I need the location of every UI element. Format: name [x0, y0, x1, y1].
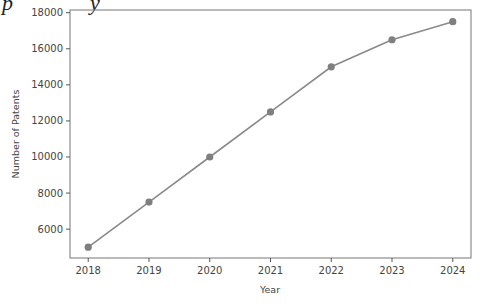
line-chart: 600080001000012000140001600018000 201820… — [0, 0, 481, 304]
y-tick-label: 8000 — [38, 188, 63, 199]
data-point-marker — [388, 36, 395, 43]
x-tick-label: 2019 — [136, 265, 161, 276]
data-point-marker — [328, 63, 335, 70]
data-point-marker — [85, 244, 92, 251]
y-axis-label: Number of Patents — [10, 90, 21, 179]
x-tick-label: 2024 — [440, 265, 465, 276]
y-tick-label: 16000 — [31, 43, 63, 54]
x-axis-label: Year — [259, 284, 280, 295]
data-point-marker — [267, 108, 274, 115]
x-tick-label: 2021 — [258, 265, 283, 276]
x-tick-label: 2020 — [197, 265, 222, 276]
series-line — [88, 22, 453, 247]
data-series — [85, 18, 457, 251]
data-point-marker — [449, 18, 456, 25]
plot-area-border — [70, 10, 471, 258]
data-point-marker — [145, 198, 152, 205]
x-tick-label: 2018 — [76, 265, 101, 276]
y-tick-label: 14000 — [31, 79, 63, 90]
data-point-marker — [206, 153, 213, 160]
x-tick-label: 2022 — [319, 265, 344, 276]
y-tick-label: 18000 — [31, 7, 63, 18]
y-tick-label: 6000 — [38, 224, 63, 235]
x-axis: 2018201920202021202220232024 — [76, 258, 466, 276]
y-tick-label: 10000 — [31, 151, 63, 162]
plot-frame — [70, 10, 471, 258]
y-tick-label: 12000 — [31, 115, 63, 126]
y-axis: 600080001000012000140001600018000 — [31, 7, 70, 234]
x-tick-label: 2023 — [379, 265, 404, 276]
